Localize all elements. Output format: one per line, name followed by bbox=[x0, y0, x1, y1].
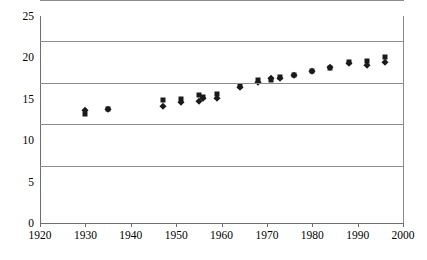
x-tick-label: 1930 bbox=[74, 229, 97, 241]
x-tick-label: 1990 bbox=[346, 229, 369, 241]
data-point-diamond bbox=[236, 84, 242, 90]
x-tick-label: 2000 bbox=[392, 229, 415, 241]
y-tick-label: 20 bbox=[23, 51, 35, 63]
x-tick-label: 1920 bbox=[29, 229, 52, 241]
y-tick-label: 0 bbox=[28, 217, 34, 229]
data-point-diamond bbox=[177, 99, 183, 105]
x-tick bbox=[267, 223, 268, 227]
x-tick bbox=[358, 223, 359, 227]
x-tick-label: 1960 bbox=[210, 229, 233, 241]
x-tick bbox=[403, 223, 404, 227]
x-tick-label: 1940 bbox=[119, 229, 142, 241]
y-tick-label: 10 bbox=[23, 134, 35, 146]
gridline-y-10 bbox=[40, 124, 404, 125]
x-tick bbox=[85, 223, 86, 227]
gridline-y-20 bbox=[40, 41, 404, 42]
x-tick-label: 1970 bbox=[255, 229, 278, 241]
gridline-y-15 bbox=[40, 83, 404, 84]
x-tick bbox=[40, 223, 41, 227]
x-tick-label: 1980 bbox=[301, 229, 324, 241]
data-point-diamond bbox=[159, 103, 165, 109]
y-axis-tick-labels: 0510152025 bbox=[0, 0, 34, 260]
gridline-y-25 bbox=[40, 0, 404, 1]
x-tick bbox=[312, 223, 313, 227]
gridline-y-5 bbox=[40, 166, 404, 167]
x-tick bbox=[176, 223, 177, 227]
scatter-chart: 0510152025 19201930194019501960197019801… bbox=[0, 0, 427, 260]
x-tick bbox=[131, 223, 132, 227]
y-tick-label: 25 bbox=[23, 10, 35, 22]
plot-right-border bbox=[403, 16, 404, 224]
data-point-diamond bbox=[345, 60, 351, 66]
y-tick-label: 15 bbox=[23, 93, 35, 105]
x-tick-label: 1950 bbox=[165, 229, 188, 241]
x-tick bbox=[222, 223, 223, 227]
plot-area bbox=[40, 16, 403, 223]
y-tick-label: 5 bbox=[28, 176, 34, 188]
